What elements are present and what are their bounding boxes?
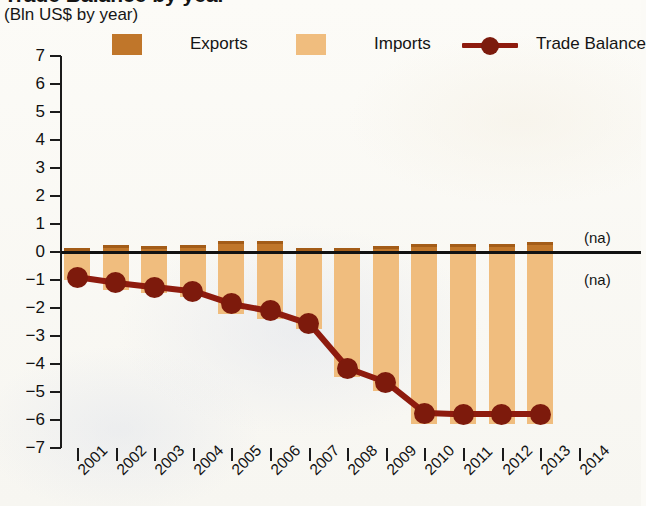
x-tick	[116, 448, 118, 461]
na-label: (na)	[584, 229, 611, 246]
x-tick	[463, 448, 465, 461]
x-tick	[579, 448, 581, 461]
x-tick	[270, 448, 272, 461]
x-tick	[502, 448, 504, 461]
x-tick	[193, 448, 195, 461]
x-tick	[309, 448, 311, 461]
x-tick	[77, 448, 79, 461]
x-tick	[347, 448, 349, 461]
na-label: (na)	[584, 271, 611, 288]
x-tick	[540, 448, 542, 461]
x-tick	[154, 448, 156, 461]
x-tick	[386, 448, 388, 461]
